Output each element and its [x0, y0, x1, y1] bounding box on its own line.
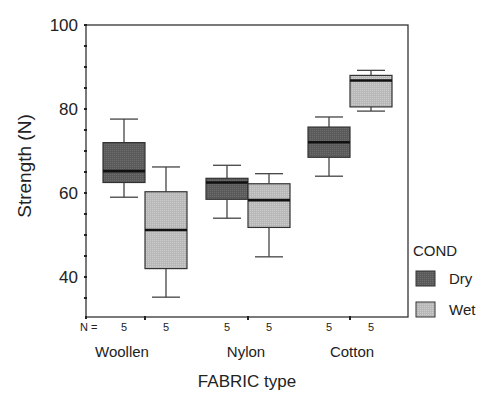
y-axis-label: Strength (N) — [14, 114, 35, 217]
n-count: 5 — [121, 321, 127, 333]
n-label: N = — [80, 321, 97, 333]
n-count: 5 — [163, 321, 169, 333]
category-label: Cotton — [330, 343, 374, 360]
legend-entry-wet: Wet — [449, 301, 476, 318]
box-cotton-dry — [308, 117, 350, 176]
n-count: 5 — [326, 321, 332, 333]
box-cotton-wet — [350, 70, 392, 111]
legend: CONDDryWet — [413, 242, 476, 318]
legend-title: COND — [413, 242, 457, 259]
category-label: Woollen — [95, 343, 149, 360]
y-tick-label: 40 — [59, 268, 78, 287]
boxplot-chart: 406080100Strength (N)555555N =WoollenNyl… — [0, 0, 496, 407]
n-count: 5 — [224, 321, 230, 333]
x-axis-label: FABRIC type — [198, 372, 296, 391]
legend-entry-dry: Dry — [449, 270, 473, 287]
y-tick-label: 80 — [59, 100, 78, 119]
n-count: 5 — [368, 321, 374, 333]
n-count: 5 — [266, 321, 272, 333]
box-nylon-wet — [248, 174, 290, 257]
y-tick-label: 100 — [50, 16, 78, 35]
box-woollen-wet — [145, 167, 187, 297]
category-label: Nylon — [227, 343, 265, 360]
box-woollen-dry — [103, 119, 145, 197]
box-nylon-dry — [206, 165, 248, 218]
y-tick-label: 60 — [59, 184, 78, 203]
